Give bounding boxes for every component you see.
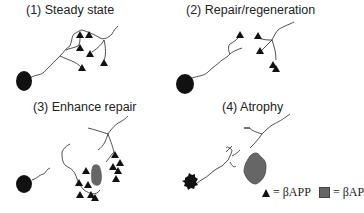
triangle-icon	[262, 189, 270, 197]
legend-bap-label: = βAP	[333, 185, 364, 200]
panel-3-title: (3) Enhance repair	[33, 100, 137, 114]
panel-1-neuron	[30, 26, 118, 78]
panel-4-bap-plaque	[244, 153, 266, 184]
square-icon	[319, 187, 330, 198]
panel-3-bap-plaque	[91, 165, 101, 186]
legend: = βAPP = βAP	[262, 185, 364, 200]
panel-3-soma	[16, 175, 32, 193]
panel-2-soma	[176, 74, 194, 94]
legend-bapp-label: = βAPP	[273, 185, 311, 200]
panel-4-title: (4) Atrophy	[222, 100, 283, 114]
panel-4-shrunken-soma	[182, 173, 198, 190]
panel-2-neuron	[192, 22, 294, 78]
panel-1-bapp-triangles	[76, 31, 108, 71]
panel-1-title: (1) Steady state	[26, 3, 114, 17]
panel-2-title: (2) Repair/regeneration	[186, 3, 315, 17]
panel-1-soma	[16, 71, 32, 91]
panel-4-neuron	[196, 114, 290, 184]
